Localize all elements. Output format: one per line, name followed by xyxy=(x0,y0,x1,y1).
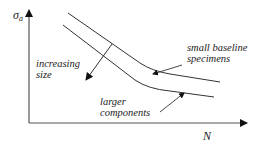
y-axis-label: σa xyxy=(13,10,23,24)
small-baseline-label: small baseline specimens xyxy=(187,42,247,64)
larger-components-leader xyxy=(160,93,184,112)
x-axis-label: N xyxy=(203,131,211,142)
increasing-size-label: increasing size xyxy=(36,58,80,80)
small-baseline-line1: small baseline xyxy=(187,42,247,53)
increasing-size-line1: increasing xyxy=(36,58,80,69)
larger-components-label: larger components xyxy=(100,96,150,118)
increasing-size-line2: size xyxy=(36,69,80,80)
small-baseline-line2: specimens xyxy=(187,53,247,64)
larger-components-line1: larger xyxy=(100,96,150,107)
small-baseline-leader xyxy=(153,65,182,74)
increasing-size-arrow xyxy=(86,44,112,80)
size-effect-sn-diagram: σa N increasing size small baseline spec… xyxy=(0,0,265,145)
larger-components-line2: components xyxy=(100,107,150,118)
